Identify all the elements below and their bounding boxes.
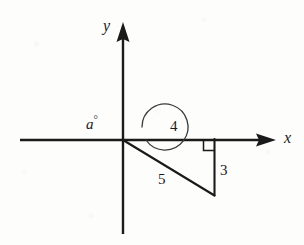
side-label-adjacent: 4 [170,119,178,134]
right-angle-marker [204,141,215,151]
side-label-opposite: 3 [220,163,228,178]
coordinate-plane-svg [0,0,304,245]
axes-group [20,22,276,234]
triangle-group [123,139,215,196]
x-axis-label: x [284,130,291,146]
y-axis-arrowhead [117,22,130,42]
angle-label: a° [86,114,98,132]
angle-arc [142,104,188,150]
side-label-hypotenuse: 5 [158,172,166,187]
x-axis-arrowhead [256,134,276,147]
angle-variable: a [86,116,94,132]
degree-symbol: ° [94,113,98,125]
triangle-hypotenuse [123,140,215,196]
angle-arc-group [142,104,188,150]
y-axis-label: y [103,18,110,34]
math-diagram-figure: y x a° 4 3 5 [0,0,304,245]
